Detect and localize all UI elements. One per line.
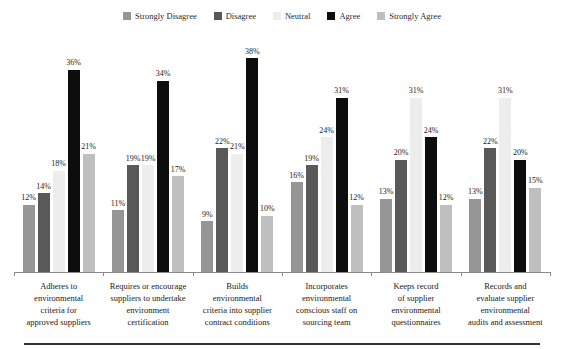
bar-value-label: 13% bbox=[379, 188, 394, 196]
bar-item[interactable]: 17% bbox=[172, 34, 184, 272]
legend-item-0[interactable]: Strongly Disagree bbox=[123, 12, 197, 21]
legend-label: Neutral bbox=[285, 12, 311, 21]
bar-item[interactable]: 34% bbox=[157, 34, 169, 272]
bar-value-label: 9% bbox=[202, 211, 213, 219]
bar[interactable] bbox=[112, 210, 124, 272]
bar-item[interactable]: 15% bbox=[529, 34, 541, 272]
legend-label: Strongly Agree bbox=[389, 12, 441, 21]
bar[interactable] bbox=[529, 188, 541, 272]
bar-item[interactable]: 19% bbox=[127, 34, 139, 272]
category-label-line: conscious staff on bbox=[284, 304, 369, 316]
category-label-line: Incorporates bbox=[284, 280, 369, 292]
axis-tick bbox=[14, 272, 15, 276]
bar[interactable] bbox=[410, 98, 422, 272]
bar[interactable] bbox=[395, 160, 407, 273]
category-label-3: Incorporatesenvironmentalconscious staff… bbox=[282, 280, 371, 328]
bar[interactable] bbox=[38, 193, 50, 272]
bar-item[interactable]: 18% bbox=[53, 34, 65, 272]
category-label-line: Requires or encourage bbox=[105, 280, 190, 292]
bar[interactable] bbox=[53, 171, 65, 272]
bar-item[interactable]: 24% bbox=[321, 34, 333, 272]
bar-value-label: 12% bbox=[21, 194, 36, 202]
bar-item[interactable]: 19% bbox=[306, 34, 318, 272]
bar-value-label: 21% bbox=[81, 143, 96, 151]
bar-chart: Strongly DisagreeDisagreeNeutralAgreeStr… bbox=[0, 0, 564, 349]
bar-item[interactable]: 9% bbox=[201, 34, 213, 272]
bar-value-label: 19% bbox=[126, 155, 141, 163]
category-label-line: environment bbox=[105, 304, 190, 316]
bar-item[interactable]: 22% bbox=[484, 34, 496, 272]
bar[interactable] bbox=[469, 199, 481, 272]
category-label-line: suppliers to undertake bbox=[105, 292, 190, 304]
category-label-0: Adheres toenvironmentalcriteria forappro… bbox=[14, 280, 103, 328]
bar[interactable] bbox=[351, 205, 363, 273]
bar-item[interactable]: 31% bbox=[499, 34, 511, 272]
category-label-line: environmental bbox=[195, 292, 280, 304]
legend-item-2[interactable]: Neutral bbox=[273, 12, 311, 21]
bar-item[interactable]: 20% bbox=[395, 34, 407, 272]
bar-value-label: 38% bbox=[245, 48, 260, 56]
bar-value-label: 10% bbox=[260, 205, 275, 213]
bar[interactable] bbox=[306, 165, 318, 272]
bar-item[interactable]: 11% bbox=[112, 34, 124, 272]
legend-item-4[interactable]: Strongly Agree bbox=[377, 12, 441, 21]
bar[interactable] bbox=[514, 160, 526, 273]
bar-item[interactable]: 36% bbox=[68, 34, 80, 272]
bar-item[interactable]: 19% bbox=[142, 34, 154, 272]
bar-item[interactable]: 14% bbox=[38, 34, 50, 272]
bar[interactable] bbox=[380, 199, 392, 272]
bar-item[interactable]: 16% bbox=[291, 34, 303, 272]
bar-item[interactable]: 12% bbox=[23, 34, 35, 272]
bar-item[interactable]: 20% bbox=[514, 34, 526, 272]
bar[interactable] bbox=[261, 216, 273, 272]
category-label-line: Records and bbox=[463, 280, 548, 292]
bar[interactable] bbox=[83, 154, 95, 272]
bar[interactable] bbox=[231, 154, 243, 272]
bar-item[interactable]: 13% bbox=[469, 34, 481, 272]
category-label-line: environmental bbox=[373, 304, 458, 316]
bar[interactable] bbox=[246, 58, 258, 272]
bar[interactable] bbox=[142, 165, 154, 272]
bar-item[interactable]: 21% bbox=[231, 34, 243, 272]
bar[interactable] bbox=[127, 165, 139, 272]
bar-item[interactable]: 21% bbox=[83, 34, 95, 272]
axis-tick bbox=[193, 272, 194, 276]
bar[interactable] bbox=[157, 81, 169, 272]
bar-value-label: 19% bbox=[304, 155, 319, 163]
bar[interactable] bbox=[201, 221, 213, 272]
category-label-line: environmental bbox=[16, 292, 101, 304]
category-label-line: questionnaires bbox=[373, 316, 458, 328]
bar[interactable] bbox=[68, 70, 80, 273]
bar[interactable] bbox=[172, 176, 184, 272]
bar-item[interactable]: 13% bbox=[380, 34, 392, 272]
legend-item-3[interactable]: Agree bbox=[327, 12, 360, 21]
bar[interactable] bbox=[216, 148, 228, 272]
bar[interactable] bbox=[484, 148, 496, 272]
category-label-line: Adheres to bbox=[16, 280, 101, 292]
bar-item[interactable]: 31% bbox=[410, 34, 422, 272]
bar-value-label: 24% bbox=[424, 127, 439, 135]
bar[interactable] bbox=[291, 182, 303, 272]
category-label-2: Buildsenvironmentalcriteria into supplie… bbox=[193, 280, 282, 328]
legend-label: Disagree bbox=[226, 12, 256, 21]
bar-item[interactable]: 10% bbox=[261, 34, 273, 272]
bar-value-label: 12% bbox=[349, 194, 364, 202]
bar[interactable] bbox=[23, 205, 35, 273]
bar-item[interactable]: 12% bbox=[351, 34, 363, 272]
bar[interactable] bbox=[440, 205, 452, 273]
axis-tick bbox=[103, 272, 104, 276]
legend-swatch-icon bbox=[273, 12, 281, 20]
category-label-line: evaluate supplier bbox=[463, 292, 548, 304]
bar[interactable] bbox=[321, 137, 333, 272]
bar-item[interactable]: 22% bbox=[216, 34, 228, 272]
category-axis-labels: Adheres toenvironmentalcriteria forappro… bbox=[14, 280, 550, 328]
bar[interactable] bbox=[336, 98, 348, 272]
legend-swatch-icon bbox=[327, 12, 335, 20]
bar-item[interactable]: 38% bbox=[246, 34, 258, 272]
bar-item[interactable]: 24% bbox=[425, 34, 437, 272]
bar-item[interactable]: 12% bbox=[440, 34, 452, 272]
bar-item[interactable]: 31% bbox=[336, 34, 348, 272]
bar[interactable] bbox=[425, 137, 437, 272]
legend-item-1[interactable]: Disagree bbox=[214, 12, 256, 21]
bar[interactable] bbox=[499, 98, 511, 272]
